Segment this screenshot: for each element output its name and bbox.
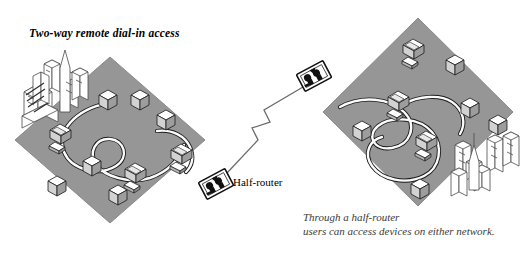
left-network (15, 50, 205, 223)
half-router-label: Half-router (233, 176, 282, 188)
figure-caption: Through a half-router users can access d… (303, 210, 495, 238)
right-city-skyline (451, 132, 519, 196)
caption-line-2: users can access devices on either netwo… (303, 224, 495, 238)
upper-half-router[interactable] (296, 61, 331, 92)
right-network (323, 18, 519, 206)
lower-half-router[interactable] (198, 169, 233, 200)
figure-canvas: Two-way remote dial-in access Half-route… (0, 0, 531, 261)
caption-line-1: Through a half-router (303, 210, 495, 224)
figure-title: Two-way remote dial-in access (29, 27, 180, 39)
dial-in-link (227, 87, 303, 173)
